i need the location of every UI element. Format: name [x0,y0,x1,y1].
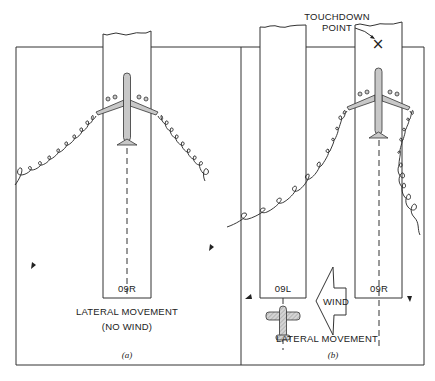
wake-vortex-left [227,110,347,227]
wake-vortex-right [398,110,420,235]
panel-a-title: LATERAL MOVEMENT [76,306,178,317]
runway-09r-a [103,31,151,298]
runway-09l [260,25,306,350]
runway-label: 09R [118,283,136,294]
wind-label: WIND [323,296,349,307]
arrowhead-icon [31,262,36,269]
wake-vortex-right [158,115,208,181]
wake-vortex-diagram: 09R LATERAL MOVEMENT (NO WIND) (a) [0,0,435,381]
runway-label-09r: 09R [370,283,388,294]
panel-a-caption: (a) [122,350,133,360]
panel-a: 09R LATERAL MOVEMENT (NO WIND) (a) [15,31,241,365]
arrowhead-icon [407,296,412,302]
touchdown-marker: × [372,35,385,53]
wake-vortex-left [15,115,96,185]
panel-b-caption: (b) [328,350,339,360]
airplane-icon [96,73,158,145]
panel-b-title: LATERAL MOVEMENT [276,333,378,344]
touchdown-label: TOUCHDOWN [304,11,369,22]
arrowhead-icon [209,244,214,251]
touchdown-label-2: POINT [322,22,352,33]
arrow-left-icon: WIND [316,267,349,335]
panel-a-subtitle: (NO WIND) [102,321,152,332]
panel-b: TOUCHDOWN POINT × 09L 09R WIND [227,11,424,365]
arrowhead-icon [245,294,252,299]
runway-label-09l: 09L [275,283,291,294]
airplane-icon [347,68,410,138]
